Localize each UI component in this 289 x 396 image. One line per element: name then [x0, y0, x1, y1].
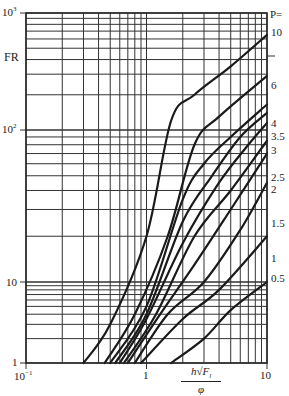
legend-title: P= — [270, 9, 282, 20]
curve-label-3: 3 — [271, 145, 277, 156]
log-log-chart — [0, 0, 289, 396]
curve-label-2.5: 2.5 — [271, 172, 285, 183]
curve-p-3 — [120, 123, 267, 363]
curve-label-6: 6 — [271, 80, 277, 91]
curve-label-3.5: 3.5 — [271, 131, 285, 142]
y-tick-100: 102 — [2, 123, 17, 135]
y-tick-10: 10 — [6, 277, 17, 288]
curve-label-1.5: 1.5 — [271, 218, 285, 229]
x-tick-10: 10 — [260, 370, 271, 381]
curve-label-10: 10 — [271, 27, 282, 38]
y-axis-label: FR — [4, 51, 19, 63]
curve-label-1: 1 — [271, 253, 277, 264]
y-tick-1: 1 — [12, 357, 18, 368]
curve-p-6 — [105, 76, 267, 363]
curve-label-0.5: 0.5 — [271, 273, 285, 284]
x-tick-0.1: 10−1 — [14, 370, 32, 382]
curve-label-4: 4 — [271, 118, 277, 129]
y-tick-1000: 103 — [2, 6, 17, 18]
curve-label-2: 2 — [271, 184, 277, 195]
x-tick-1: 1 — [143, 370, 149, 381]
x-axis-label: h√Fl φ — [181, 366, 221, 395]
curve-p-2 — [128, 154, 267, 363]
